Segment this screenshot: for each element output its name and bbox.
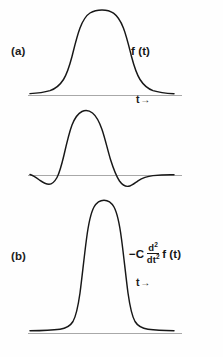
panel-c: (c) f(t) −C d2 dt2 f (t) t→: [0, 190, 223, 357]
panel-c-curve: [30, 200, 174, 331]
panel-b: (b) −C d2 dt2 f (t) t→: [0, 100, 223, 200]
panel-a-formula-lead: f (t): [131, 45, 150, 57]
panel-a-curve: [30, 10, 174, 94]
panel-label-a: (a): [11, 45, 25, 57]
panel-a-formula: f (t): [131, 45, 150, 57]
panel-b-plot: [0, 100, 223, 200]
panel-c-plot: [0, 190, 223, 357]
figure-container: (a) f (t) t→ (b) −C d2 dt2 f (t) t→: [0, 0, 223, 357]
